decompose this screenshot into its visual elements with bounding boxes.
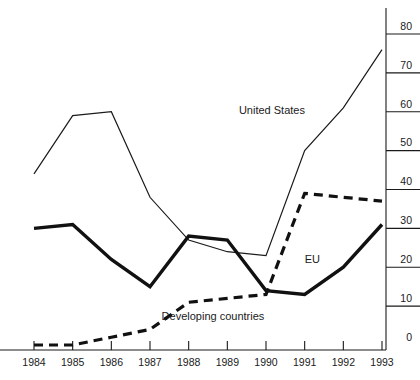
x-tick-label: 1988: [177, 356, 201, 368]
y-tick-label: 0: [406, 331, 412, 343]
annotation-developing-countries: Developing countries: [162, 310, 265, 322]
annotation-united-states: United States: [239, 104, 306, 116]
y-tick-label: 30: [400, 214, 412, 226]
x-tick-label: 1989: [216, 356, 240, 368]
y-axis: 01020304050607080: [386, 8, 420, 350]
y-tick-label: 40: [400, 175, 412, 187]
chart-container: 01020304050607080 1984198519861987198819…: [0, 0, 420, 380]
x-tick-label: 1993: [370, 356, 394, 368]
y-tick-label: 70: [400, 59, 412, 71]
x-tick-label: 1987: [138, 356, 162, 368]
x-tick-label: 1984: [22, 356, 46, 368]
y-tick-label: 10: [400, 292, 412, 304]
series-lines: [34, 50, 382, 345]
series-line-developing-countries: [34, 193, 382, 345]
series-line-united-states: [34, 50, 382, 256]
x-tick-label: 1986: [100, 356, 124, 368]
line-chart: 01020304050607080 1984198519861987198819…: [0, 0, 420, 380]
x-tick-label: 1990: [254, 356, 278, 368]
series-line-eu: [34, 224, 382, 294]
y-tick-label: 20: [400, 253, 412, 265]
series-annotations: United StatesEUDeveloping countries: [162, 104, 320, 322]
y-tick-label: 60: [400, 98, 412, 110]
x-tick-label: 1991: [293, 356, 317, 368]
y-tick-label: 80: [400, 20, 412, 32]
x-axis: 1984198519861987198819891990199119921993: [0, 341, 394, 368]
y-tick-label: 50: [400, 136, 412, 148]
x-tick-label: 1992: [332, 356, 356, 368]
x-tick-label: 1985: [61, 356, 85, 368]
annotation-eu: EU: [305, 253, 320, 265]
